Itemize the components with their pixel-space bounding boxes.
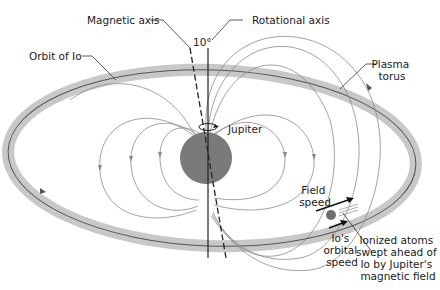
io-torus-diagram: Magnetic axis 10° Rotational axis Orbit … [0, 0, 440, 290]
magnetic-axis-label: Magnetic axis [87, 14, 159, 26]
field-speed-label: Field speed [299, 184, 331, 208]
rotational-axis-label: Rotational axis [252, 14, 330, 26]
orbit-of-io-label: Orbit of Io [29, 50, 82, 62]
tilt-angle-label: 10° [193, 36, 212, 48]
arrow-icon [98, 152, 162, 171]
plasma-torus-label: Plasma torus [371, 58, 412, 82]
jupiter-label: Jupiter [227, 123, 263, 135]
ionized-atoms-streak [339, 204, 358, 216]
io-moon [326, 210, 336, 220]
ionized-atoms-label: Ionized atoms swept ahead of Io by Jupit… [356, 234, 440, 282]
arrow-icon [283, 152, 316, 160]
